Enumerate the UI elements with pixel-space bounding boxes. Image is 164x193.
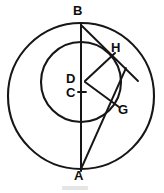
geometry-canvas	[0, 0, 164, 193]
geometry-figure: B H D C G A	[0, 0, 164, 193]
point-label-C: C	[66, 86, 75, 99]
scan-artifact	[62, 186, 88, 190]
point-label-G: G	[118, 103, 128, 116]
point-label-D: D	[66, 72, 75, 85]
point-label-H: H	[111, 41, 120, 54]
point-label-A: A	[74, 169, 83, 182]
segment-B-to-H-extended	[81, 25, 138, 81]
point-label-B: B	[73, 4, 82, 17]
segment-D-to-H-radius	[85, 53, 115, 81]
